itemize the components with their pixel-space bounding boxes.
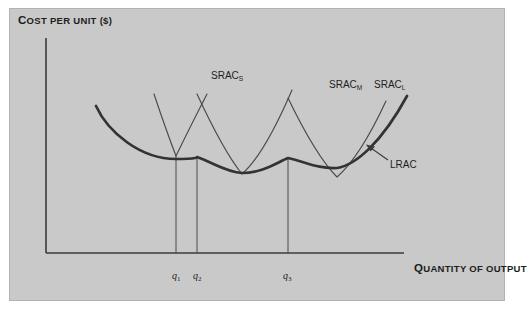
curve-srac-l xyxy=(288,98,386,177)
x-tick-label-q1-sub: 1 xyxy=(177,275,181,283)
curve-label-srac-m: SRACM xyxy=(329,79,362,90)
curve-label-srac-l: SRACL xyxy=(374,79,405,90)
curve-label-srac-l-base: SRAC xyxy=(374,79,402,90)
curve-lrac xyxy=(96,96,407,173)
curve-label-srac-s-base: SRAC xyxy=(211,70,239,81)
x-tick-label-q2: q2 xyxy=(193,270,202,281)
curve-label-srac-m-sub: M xyxy=(357,84,362,91)
x-tick-label-q2-sub: 2 xyxy=(198,275,202,283)
y-axis-title-lead: C xyxy=(18,14,27,26)
curve-label-srac-m-base: SRAC xyxy=(329,79,357,90)
curve-srac-s xyxy=(154,94,207,156)
x-tick-label-q3: q3 xyxy=(283,270,292,281)
x-axis-title-lead: Q xyxy=(414,262,423,274)
x-axis-title-rest: UANTITY OF OUTPUT xyxy=(423,263,527,274)
curve-label-srac-s-sub: S xyxy=(239,75,243,82)
x-axis-title: QUANTITY OF OUTPUT xyxy=(414,262,527,274)
x-tick-label-q1: q1 xyxy=(172,270,181,281)
y-axis-title-rest: OST PER UNIT ($) xyxy=(27,15,113,26)
curve-label-lrac: LRAC xyxy=(390,159,417,170)
x-tick-label-q3-sub: 3 xyxy=(288,275,292,283)
curve-label-srac-s: SRACS xyxy=(211,70,243,81)
y-axis-title: COST PER UNIT ($) xyxy=(18,14,112,26)
curve-label-srac-l-sub: L xyxy=(402,84,406,91)
